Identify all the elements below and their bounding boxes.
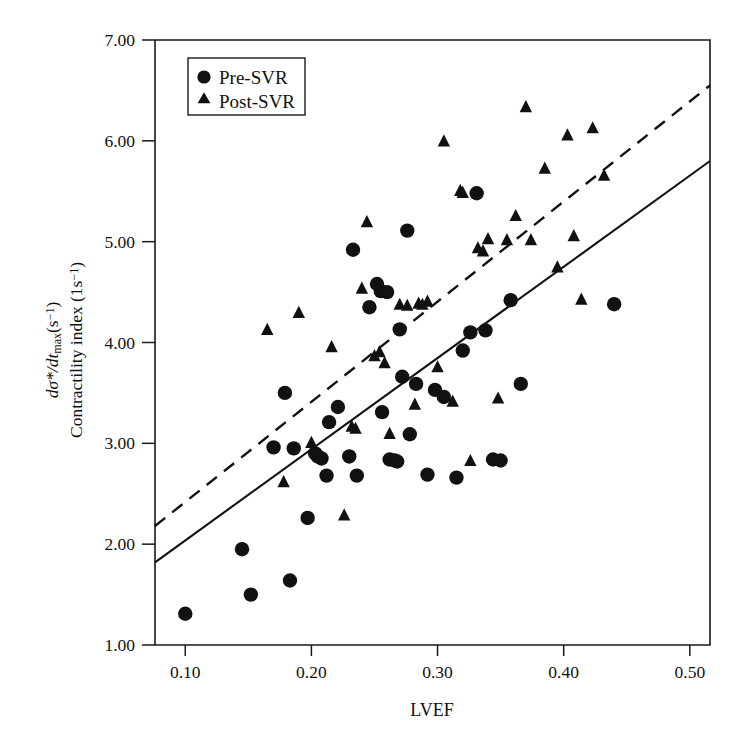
data-point-pre-svr	[456, 343, 470, 357]
data-point-pre-svr	[420, 467, 434, 481]
y-axis-tick-labels: 1.002.003.004.005.006.007.00	[104, 30, 135, 655]
y-axis-title-contractility: Contractility index (1s	[66, 280, 86, 438]
data-point-pre-svr	[403, 427, 417, 441]
legend-circle-icon	[197, 70, 210, 83]
y-tick-label: 7.00	[104, 30, 135, 50]
data-point-post-svr	[378, 356, 390, 368]
y-axis-title-unit-open: (s	[42, 320, 62, 333]
data-point-pre-svr	[469, 186, 483, 200]
y-tick-label: 3.00	[104, 433, 135, 453]
x-tick-label: 0.40	[548, 662, 579, 682]
y-axis-title-line2-close: )	[66, 262, 86, 268]
y-axis-title: dσ*/dtmax(s−1) Contractility index (1s−1…	[42, 262, 86, 438]
regression-line-pre-svr	[155, 161, 710, 562]
data-point-pre-svr	[493, 453, 507, 467]
data-point-pre-svr	[342, 449, 356, 463]
data-point-pre-svr	[390, 454, 404, 468]
data-point-post-svr	[464, 454, 476, 466]
data-point-pre-svr	[278, 386, 292, 400]
data-point-post-svr	[568, 229, 580, 241]
data-point-pre-svr	[322, 415, 336, 429]
x-tick-label: 0.10	[170, 662, 201, 682]
scatter-plot-figure: 0.100.200.300.400.50 1.002.003.004.005.0…	[0, 0, 745, 745]
data-point-pre-svr	[235, 542, 249, 556]
y-axis-title-line1: dσ*/dtmax(s−1)	[42, 302, 64, 399]
data-point-post-svr	[277, 475, 289, 487]
y-axis-title-line2-exp: −1	[67, 268, 81, 281]
data-point-pre-svr	[607, 297, 621, 311]
data-point-pre-svr	[514, 377, 528, 391]
data-point-post-svr	[539, 162, 551, 174]
y-tick-label: 1.00	[104, 635, 135, 655]
data-point-pre-svr	[346, 243, 360, 257]
data-point-pre-svr	[504, 293, 518, 307]
y-tick-label: 5.00	[104, 232, 135, 252]
data-point-post-svr	[510, 209, 522, 221]
data-point-post-svr	[338, 508, 350, 520]
x-tick-label: 0.50	[675, 662, 706, 682]
chart-canvas: 0.100.200.300.400.50 1.002.003.004.005.0…	[0, 0, 745, 745]
regression-lines	[155, 85, 710, 562]
data-point-post-svr	[438, 134, 450, 146]
y-axis-title-dsigma: dσ*/dt	[42, 353, 62, 399]
data-point-pre-svr	[375, 405, 389, 419]
data-point-pre-svr	[300, 511, 314, 525]
y-axis-title-unit-close: )	[42, 302, 62, 308]
data-point-pre-svr	[283, 573, 297, 587]
data-point-post-svr	[356, 281, 368, 293]
data-point-post-svr	[525, 233, 537, 245]
data-point-pre-svr	[362, 300, 376, 314]
y-axis-title-sub-max: max	[50, 333, 64, 354]
data-point-pre-svr	[287, 441, 301, 455]
data-point-post-svr	[520, 100, 532, 112]
data-point-post-svr	[598, 169, 610, 181]
data-point-pre-svr	[409, 377, 423, 391]
legend-label-pre-svr: Pre-SVR	[219, 67, 288, 88]
data-point-pre-svr	[395, 370, 409, 384]
data-point-pre-svr	[266, 440, 280, 454]
data-point-post-svr	[293, 306, 305, 318]
legend-label-post-svr: Post-SVR	[219, 91, 295, 112]
data-point-pre-svr	[314, 451, 328, 465]
x-tick-label: 0.30	[422, 662, 453, 682]
data-point-pre-svr	[393, 322, 407, 336]
data-point-post-svr	[561, 128, 573, 140]
series-pre-svr-markers	[178, 186, 621, 621]
x-axis-title: LVEF	[410, 700, 453, 720]
data-point-post-svr	[361, 215, 373, 227]
y-axis-title-exp: −1	[43, 308, 57, 321]
data-point-post-svr	[261, 323, 273, 335]
x-axis-tick-labels: 0.100.200.300.400.50	[170, 662, 705, 682]
data-point-post-svr	[551, 260, 563, 272]
data-point-pre-svr	[478, 323, 492, 337]
data-point-pre-svr	[178, 607, 192, 621]
y-axis-title-line2: Contractility index (1s−1)	[66, 262, 86, 438]
legend: Pre-SVR Post-SVR	[188, 58, 305, 115]
data-point-pre-svr	[244, 587, 258, 601]
x-tick-label: 0.20	[296, 662, 327, 682]
y-tick-label: 4.00	[104, 333, 135, 353]
data-point-pre-svr	[400, 223, 414, 237]
data-point-post-svr	[575, 293, 587, 305]
data-point-pre-svr	[319, 468, 333, 482]
data-point-pre-svr	[449, 470, 463, 484]
y-tick-label: 2.00	[104, 534, 135, 554]
data-point-pre-svr	[350, 468, 364, 482]
y-tick-label: 6.00	[104, 131, 135, 151]
data-point-post-svr	[325, 340, 337, 352]
data-point-post-svr	[482, 232, 494, 244]
tick-marks	[142, 40, 690, 656]
data-point-pre-svr	[331, 400, 345, 414]
data-point-post-svr	[501, 233, 513, 245]
data-point-post-svr	[409, 397, 421, 409]
data-point-pre-svr	[463, 325, 477, 339]
data-point-post-svr	[383, 427, 395, 439]
data-point-post-svr	[586, 121, 598, 133]
data-point-pre-svr	[380, 285, 394, 299]
data-point-post-svr	[492, 391, 504, 403]
data-point-post-svr	[305, 436, 317, 448]
